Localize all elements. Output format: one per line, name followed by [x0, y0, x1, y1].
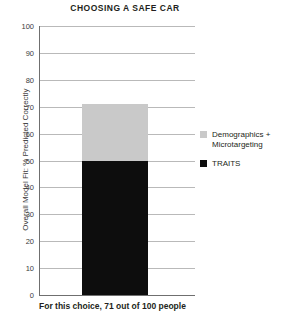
gridline	[39, 53, 195, 54]
legend-label: TRAITS	[212, 159, 240, 169]
y-tick-label: 100	[4, 22, 34, 31]
y-tick-label: 60	[4, 130, 34, 139]
y-tick-label: 70	[4, 103, 34, 112]
legend-swatch-icon	[200, 131, 207, 138]
y-axis-line	[39, 26, 40, 296]
chart-legend: Demographics + Microtargeting TRAITS	[200, 130, 295, 178]
y-tick-label: 30	[4, 210, 34, 219]
chart-title: CHOOSING A SAFE CAR	[0, 3, 250, 13]
legend-item-traits: TRAITS	[200, 159, 295, 169]
legend-label: Demographics + Microtargeting	[212, 130, 295, 150]
y-tick-label: 10	[4, 264, 34, 273]
x-axis-line	[39, 295, 195, 296]
y-tick-label: 50	[4, 157, 34, 166]
y-tick-label: 80	[4, 76, 34, 85]
bar-segment-traits	[82, 161, 148, 296]
plot-area: 100 90 80 70 60 50 40 30	[39, 26, 195, 295]
y-tick-label: 40	[4, 183, 34, 192]
gridline	[39, 26, 195, 27]
y-tick-label: 20	[4, 237, 34, 246]
bar-segment-demographics	[82, 104, 148, 161]
y-tick-label: 0	[4, 291, 34, 300]
chart-figure: CHOOSING A SAFE CAR Overall Model Fit: %…	[0, 0, 295, 313]
y-tick-label: 90	[4, 49, 34, 58]
gridline	[39, 80, 195, 81]
legend-item-demographics: Demographics + Microtargeting	[200, 130, 295, 150]
chart-annotation: For this choice, 71 out of 100 people	[39, 301, 269, 311]
legend-swatch-icon	[200, 160, 207, 167]
